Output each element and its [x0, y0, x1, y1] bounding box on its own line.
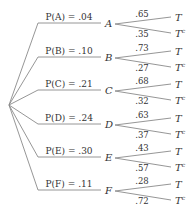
node-f: F: [104, 185, 113, 196]
node-d: D: [104, 119, 113, 130]
branch-probability-label: P(A) = .04: [45, 12, 92, 22]
conditional-prob-t: .28: [135, 176, 149, 186]
branch-probability-label: P(B) = .10: [45, 46, 93, 56]
conditional-prob-t: .65: [135, 9, 149, 19]
conditional-prob-tc: .27: [135, 63, 149, 73]
conditional-prob-t: .43: [135, 143, 149, 153]
leaf-tc: Tc: [175, 194, 186, 206]
conditional-prob-tc: .35: [135, 29, 149, 39]
leaf-tc: Tc: [175, 128, 186, 140]
branch-probability-label: P(E) = .30: [45, 146, 92, 156]
conditional-prob-tc: .57: [135, 163, 149, 173]
leaf-t: T: [175, 79, 183, 90]
node-a: A: [104, 18, 112, 29]
branch-diagonal-f: [9, 105, 38, 190]
branch-probability-label: P(F) = .11: [46, 179, 93, 189]
probability-tree-diagram: P(A) = .04A.65.35TTcP(B) = .10B.73.27TTc…: [0, 0, 192, 209]
leaf-tc: Tc: [175, 94, 186, 106]
leaf-t: T: [175, 46, 183, 57]
leaf-tc: Tc: [175, 161, 186, 173]
node-c: C: [105, 85, 113, 96]
conditional-prob-t: .73: [135, 43, 149, 53]
node-b: B: [104, 52, 112, 63]
branch-probability-label: P(C) = .21: [45, 79, 93, 89]
conditional-prob-tc: .72: [135, 196, 149, 206]
conditional-prob-t: .63: [135, 110, 149, 120]
branch-diagonal-d: [9, 105, 38, 124]
leaf-tc: Tc: [175, 61, 186, 73]
tree-canvas: P(A) = .04A.65.35TTcP(B) = .10B.73.27TTc…: [0, 0, 192, 209]
conditional-prob-tc: .32: [135, 96, 149, 106]
leaf-tc: Tc: [175, 27, 186, 39]
node-e: E: [104, 152, 113, 163]
branch-probability-label: P(D) = .24: [45, 113, 93, 123]
leaf-t: T: [175, 146, 183, 157]
conditional-prob-t: .68: [135, 76, 149, 86]
conditional-prob-tc: .37: [135, 130, 149, 140]
leaf-t: T: [175, 113, 183, 124]
leaf-t: T: [175, 179, 183, 190]
leaf-t: T: [175, 12, 183, 23]
branch-diagonal-e: [9, 105, 38, 157]
